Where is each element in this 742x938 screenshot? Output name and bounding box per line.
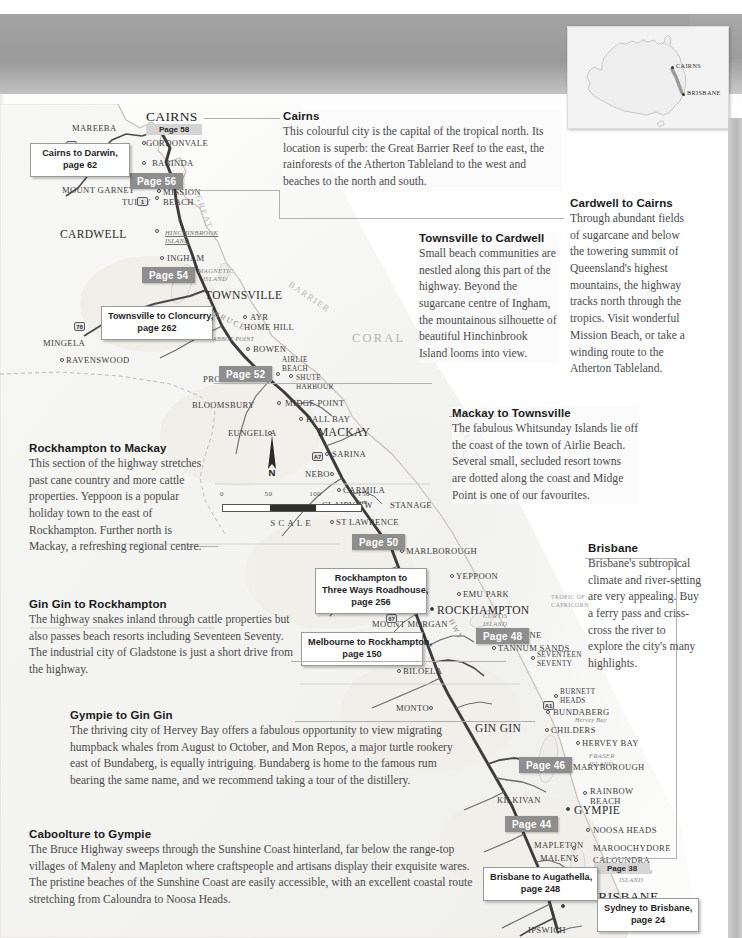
- callout-line-3: page 256: [351, 597, 390, 607]
- callout-line-1: Melbourne to Rockhampton,: [308, 637, 432, 647]
- place-label-cardwell: CARDWELL: [60, 228, 127, 240]
- text-block-rockhampton-to-mackay-title: Rockhampton to Mackay: [29, 442, 211, 454]
- text-block-caboolture-to-gympie-body: The Bruce Highway sweeps through the Sun…: [29, 842, 487, 909]
- place-label-marlborough: MARLBOROUGH: [406, 547, 477, 556]
- callout-line-2: page 62: [63, 160, 97, 170]
- place-label-ingham: INGHAM: [167, 254, 204, 263]
- text-block-brisbane-body: Brisbane's subtropical climate and river…: [588, 556, 703, 673]
- city-chip-cairns-page[interactable]: Page 58: [146, 124, 202, 135]
- callout-line-2: page 150: [342, 649, 381, 659]
- callout-rockhampton-to-three-ways[interactable]: Rockhampton to Three Ways Roadhouse, pag…: [315, 568, 427, 614]
- text-block-gympie-to-gin-gin: Gympie to Gin Gin The thriving city of H…: [70, 709, 470, 790]
- place-label-cairns: CAIRNS: [146, 110, 198, 124]
- scale-tick-100: 100: [309, 490, 321, 498]
- leader-line-townsville-cardwell: [214, 383, 432, 384]
- text-block-gympie-to-gin-gin-title: Gympie to Gin Gin: [70, 709, 470, 721]
- text-block-gin-gin-to-rockhampton-body: The highway snakes inland through cattle…: [29, 612, 303, 679]
- place-label-stanage: STANAGE: [390, 501, 432, 510]
- text-block-townsville-to-cardwell-title: Townsville to Cardwell: [419, 232, 558, 244]
- compass-north-label: N: [265, 467, 279, 478]
- callout-townsville-to-cloncurry[interactable]: Townsville to Cloncurry, page 262: [101, 306, 213, 340]
- page-chip-48[interactable]: Page 48: [476, 628, 529, 644]
- inset-label-cairns: CAIRNS: [676, 62, 701, 69]
- highway-shield-67: 67: [386, 614, 397, 623]
- place-label-mareeba: MAREEBA: [72, 124, 116, 133]
- page-chip-54[interactable]: Page 54: [142, 267, 195, 283]
- place-label-hinchinbrook-island: HINCHINBROOK ISLAND: [165, 229, 217, 245]
- text-block-gympie-to-gin-gin-body: The thriving city of Hervey Bay offers a…: [70, 723, 470, 790]
- callout-cairns-to-darwin[interactable]: Cairns to Darwin, page 62: [30, 143, 130, 177]
- callout-line-1: Brisbane to Augathella,: [490, 872, 592, 882]
- text-block-cairns-body: This colourful city is the capital of th…: [283, 124, 562, 191]
- page-chip-50[interactable]: Page 50: [352, 534, 405, 550]
- place-label-mount-morgan: MOUNT MORGAN: [372, 620, 448, 629]
- leader-line-page56a: [190, 190, 280, 191]
- text-block-cardwell-to-cairns: Cardwell to Cairns Through abundant fiel…: [570, 197, 690, 378]
- place-label-bloomsbury: BLOOMSBURY: [192, 401, 255, 410]
- place-label-gordonvale: GORDONVALE: [146, 139, 208, 148]
- text-block-rockhampton-to-mackay: Rockhampton to Mackay This section of th…: [29, 442, 211, 556]
- callout-line-1: Rockhampton to: [335, 573, 407, 583]
- text-block-cardwell-to-cairns-body: Through abundant fields of sugarcane and…: [570, 211, 690, 378]
- place-label-mapleton: MAPLETON: [534, 841, 583, 850]
- city-chip-brisbane-page[interactable]: Page 38: [594, 863, 650, 874]
- place-label-ravenswood: RAVENSWOOD: [66, 356, 130, 365]
- place-label-curtis-island: CURTIS ISLAND: [483, 612, 517, 628]
- place-label-ball-bay: BALL BAY: [306, 415, 350, 424]
- place-label-maryborough: MARYBOROUGH: [573, 763, 645, 772]
- text-block-gin-gin-to-rockhampton-title: Gin Gin to Rockhampton: [29, 598, 303, 610]
- callout-brisbane-to-augathella[interactable]: Brisbane to Augathella, page 248: [483, 867, 598, 901]
- place-label-magnetic-island: MAGNETIC ISLAND: [198, 267, 232, 283]
- page-chip-44[interactable]: Page 44: [505, 816, 558, 832]
- leader-line-gingin-rockhampton: [291, 661, 506, 662]
- place-label-babinda: BABINDA: [152, 159, 194, 168]
- scale-bar-fill: [270, 505, 317, 511]
- place-label-biloela: BILOELA: [403, 667, 442, 676]
- place-label-bowen: BOWEN: [253, 345, 286, 354]
- leader-line-page56b: [279, 190, 280, 218]
- place-label-bundaberg: BUNDABERG: [553, 708, 610, 717]
- leader-line-cairns: [204, 118, 280, 119]
- place-label-nebo: NEBO: [305, 470, 330, 479]
- text-block-brisbane: Brisbane Brisbane's subtropical climate …: [588, 542, 703, 673]
- highway-shield-1b: 1: [137, 197, 148, 206]
- place-label-townsville: TOWNSVILLE: [205, 289, 282, 301]
- callout-line-1: Townsville to Cloncurry,: [108, 311, 213, 321]
- text-block-mackay-to-townsville-title: Mackay to Townsville: [452, 407, 638, 419]
- place-label-mount-garnet: MOUNT GARNET: [62, 186, 135, 196]
- place-label-home-hill: HOME HILL: [244, 323, 294, 332]
- page-chip-46[interactable]: Page 46: [519, 757, 572, 773]
- place-label-maroochydore: MAROOCHYDORE: [593, 844, 671, 853]
- callout-line-2: page 24: [631, 915, 665, 925]
- place-label-emu-park: EMU PARK: [463, 590, 509, 599]
- text-block-caboolture-to-gympie: Caboolture to Gympie The Bruce Highway s…: [29, 828, 487, 909]
- text-block-townsville-to-cardwell: Townsville to Cardwell Small beach commu…: [419, 232, 558, 363]
- page-chip-56[interactable]: Page 56: [130, 173, 183, 189]
- place-label-maleny: MALENY: [540, 854, 579, 863]
- text-block-brisbane-title: Brisbane: [588, 542, 703, 554]
- highway-shield-78: 78: [74, 322, 85, 331]
- place-label-kilkivan: KILKIVAN: [497, 796, 541, 805]
- right-edge-rail: [728, 118, 742, 938]
- text-block-mackay-to-townsville: Mackay to Townsville The fabulous Whitsu…: [452, 407, 638, 504]
- place-label-burnett-heads: BURNETT HEADS: [560, 688, 596, 706]
- callout-line-1: Cairns to Darwin,: [42, 148, 118, 158]
- place-label-seventeen-seventy: SEVENTEEN SEVENTY: [537, 651, 585, 669]
- callout-sydney-to-brisbane[interactable]: Sydney to Brisbane, page 24: [597, 898, 699, 932]
- place-label-gin-gin: GIN GIN: [475, 722, 521, 734]
- callout-line-2: page 248: [521, 884, 560, 894]
- text-block-cairns: Cairns This colourful city is the capita…: [283, 110, 562, 191]
- leader-line-cardwell-cairns: [279, 218, 564, 219]
- leader-line-brisbane-bottom: [600, 858, 677, 859]
- highway-shield-a1: A1: [543, 701, 554, 710]
- page-root: CAIRNS BRISBANE: [0, 0, 742, 938]
- page-chip-52[interactable]: Page 52: [219, 366, 272, 382]
- place-label-mingela: MINGELA: [43, 339, 85, 348]
- place-label-yeppoon: YEPPOON: [456, 572, 498, 581]
- highway-shield-a7: A7: [312, 452, 323, 461]
- text-block-cairns-title: Cairns: [283, 110, 562, 122]
- place-label-abbot-point: ABBOT POINT: [213, 336, 254, 342]
- place-label-childers: CHILDERS: [551, 726, 596, 735]
- text-block-caboolture-to-gympie-title: Caboolture to Gympie: [29, 828, 487, 840]
- scale-tick-50: 50: [264, 490, 272, 498]
